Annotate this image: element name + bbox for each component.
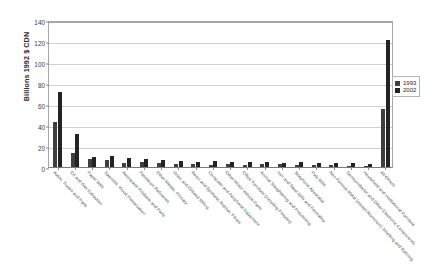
- y-tick-label: 0: [41, 166, 45, 173]
- y-tick-label: 20: [38, 145, 45, 152]
- bar-group: [243, 20, 252, 167]
- x-axis-labels: Autos, Trucks and PartsOil and Gas Extra…: [48, 170, 393, 274]
- bars-layer: [49, 22, 392, 167]
- legend-swatch-icon: [395, 81, 400, 86]
- bar-group: [88, 20, 97, 167]
- bar-group: [260, 20, 269, 167]
- bar-group: [347, 20, 356, 167]
- bar-group: [122, 20, 131, 167]
- bar-group: [105, 20, 114, 167]
- legend-item-2002: 2002: [395, 87, 416, 93]
- x-tick-label: Other Metals, Primary: [155, 170, 188, 205]
- bar: [75, 134, 79, 167]
- bar-group: [278, 20, 287, 167]
- bar: [71, 153, 75, 167]
- bar: [58, 92, 62, 167]
- legend: 1993 2002: [392, 76, 420, 97]
- y-tick-label: 120: [34, 40, 45, 47]
- y-tick-label: 100: [34, 61, 45, 68]
- bar: [144, 159, 148, 167]
- bar-group: [157, 20, 166, 167]
- bar: [381, 109, 385, 167]
- bar: [161, 160, 165, 167]
- legend-label: 1993: [403, 80, 416, 86]
- bar-group: [71, 20, 80, 167]
- y-axis-title: Billions 1992 $ CDN: [22, 7, 31, 127]
- bar-group: [174, 20, 183, 167]
- bar: [105, 160, 109, 167]
- bar-group: [140, 20, 149, 167]
- legend-item-1993: 1993: [395, 80, 416, 86]
- bar: [386, 40, 390, 167]
- bar-group: [312, 20, 321, 167]
- bar-chart: Billions 1992 $ CDN 020406080100120140 A…: [0, 0, 442, 274]
- legend-label: 2002: [403, 87, 416, 93]
- y-tick-label: 140: [34, 19, 45, 26]
- x-tick-label: All Others: [380, 170, 397, 188]
- plot-area: 020406080100120140: [48, 21, 393, 168]
- bar-group: [209, 20, 218, 167]
- y-tick-label: 40: [38, 124, 45, 131]
- bar-group: [329, 20, 338, 167]
- bar-group: [295, 20, 304, 167]
- bar: [127, 158, 131, 167]
- bar: [88, 159, 92, 167]
- bar: [110, 156, 114, 167]
- y-tick-label: 60: [38, 103, 45, 110]
- x-tick-label: Pulp Mills: [311, 170, 328, 188]
- x-tick-label: Petroleum Refineries: [138, 170, 170, 204]
- bar-group: [191, 20, 200, 167]
- bar-group: [53, 20, 62, 167]
- x-tick-label: Autos, Trucks and Parts: [52, 170, 88, 208]
- x-tick-label: Telephone Apparatus: [293, 170, 325, 204]
- x-tick-label: Oil and Gas Extraction: [69, 170, 103, 206]
- bar: [92, 157, 96, 167]
- x-tick-label: Semiconductor and Other Electronic Compo…: [345, 170, 416, 246]
- y-tick-label: 80: [38, 82, 45, 89]
- bar-group: [364, 20, 373, 167]
- bar: [53, 122, 57, 167]
- bar-group: [381, 20, 390, 167]
- legend-swatch-icon: [395, 88, 400, 93]
- bar-group: [226, 20, 235, 167]
